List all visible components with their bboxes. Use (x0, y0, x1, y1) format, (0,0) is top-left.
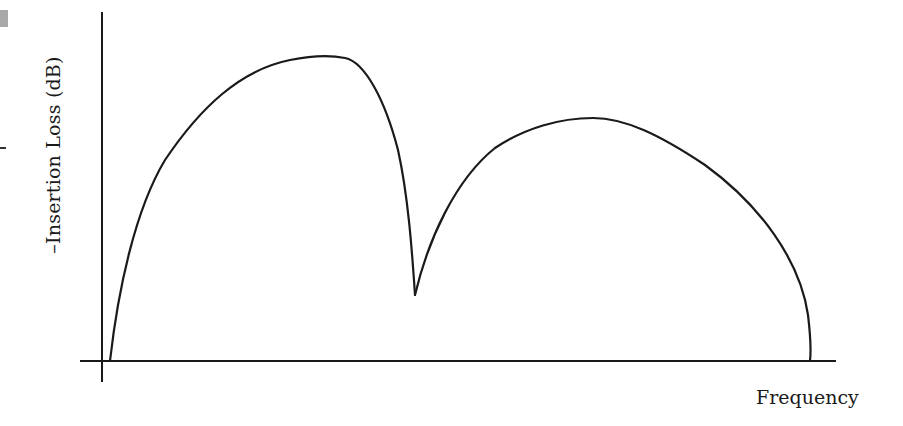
x-axis-label: Frequency (756, 386, 859, 408)
insertion-loss-curve-lobe-2 (415, 118, 811, 361)
page-edge-dash (0, 147, 6, 149)
chart-canvas (0, 0, 903, 426)
insertion-loss-curve-lobe-1 (110, 56, 415, 361)
y-axis-label: –Insertion Loss (dB) (42, 56, 64, 253)
page-edge-mark (0, 10, 8, 27)
